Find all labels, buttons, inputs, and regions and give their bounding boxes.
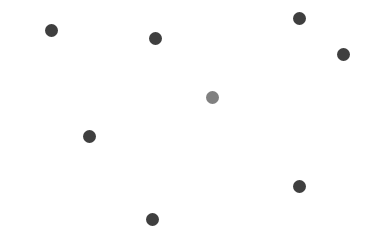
data-point-highlighted[interactable] bbox=[206, 91, 219, 104]
data-point[interactable] bbox=[293, 12, 306, 25]
data-point[interactable] bbox=[83, 130, 96, 143]
data-point[interactable] bbox=[149, 32, 162, 45]
data-point[interactable] bbox=[293, 180, 306, 193]
scatter-plot-canvas bbox=[0, 0, 376, 247]
data-point[interactable] bbox=[146, 213, 159, 226]
data-point[interactable] bbox=[337, 48, 350, 61]
data-point[interactable] bbox=[45, 24, 58, 37]
